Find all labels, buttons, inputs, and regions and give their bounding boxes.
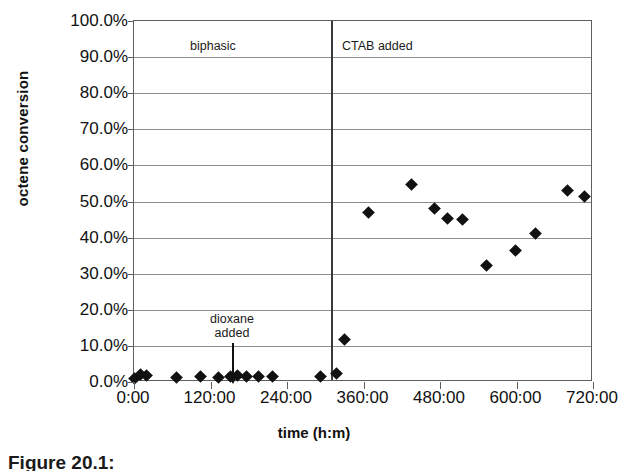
data-point-marker [267, 370, 280, 383]
gridline [134, 310, 591, 311]
y-tick-label: 40.0% [36, 229, 128, 246]
y-tick-mark [128, 165, 134, 166]
y-tick-mark [128, 238, 134, 239]
y-tick-label: 60.0% [36, 156, 128, 173]
data-point-marker [338, 333, 351, 346]
y-tick-label: 10.0% [36, 337, 128, 354]
y-tick-mark [128, 129, 134, 130]
gridline [134, 274, 591, 275]
data-point-marker [480, 259, 493, 272]
gridline [134, 57, 591, 58]
figure-scatter-chart: octene conversion 0.0%10.0%20.0%30.0%40.… [0, 0, 628, 471]
gridline [134, 93, 591, 94]
ctab-divider-line [331, 21, 333, 380]
data-point-marker [441, 212, 454, 225]
data-point-marker [429, 202, 442, 215]
figure-caption: Figure 20.1: [8, 452, 428, 471]
y-tick-label: 70.0% [36, 120, 128, 137]
dioxane-annotation-line1: dioxane [210, 312, 254, 326]
y-tick-mark [128, 57, 134, 58]
dioxane-annotation-line2: added [192, 326, 272, 340]
y-tick-mark [128, 382, 134, 383]
data-point-marker [170, 371, 183, 384]
plot-area: biphasic CTAB added dioxane added [133, 20, 592, 381]
y-tick-label: 30.0% [36, 265, 128, 282]
y-tick-label: 100.0% [36, 12, 128, 29]
y-tick-label: 80.0% [36, 84, 128, 101]
data-point-marker [509, 244, 522, 257]
x-axis-tick-labels: 0:00120:00240:00360:00480:00600:00720:00 [0, 389, 628, 415]
data-point-marker [195, 370, 208, 383]
x-tick-label: 720:00 [547, 389, 628, 406]
y-tick-mark [128, 310, 134, 311]
dioxane-annotation: dioxane added [192, 312, 272, 340]
y-tick-mark [128, 274, 134, 275]
y-tick-label: 50.0% [36, 193, 128, 210]
y-tick-label: 0.0% [36, 373, 128, 390]
data-point-marker [405, 178, 418, 191]
y-tick-mark [128, 93, 134, 94]
biphasic-region-label: biphasic [190, 39, 236, 53]
data-point-marker [253, 370, 266, 383]
data-point-marker [314, 371, 327, 384]
y-tick-mark [128, 202, 134, 203]
gridline [134, 346, 591, 347]
y-tick-label: 20.0% [36, 301, 128, 318]
gridline [134, 202, 591, 203]
data-point-marker [457, 214, 470, 227]
ctab-added-region-label: CTAB added [342, 39, 413, 53]
x-axis-title: time (h:m) [0, 424, 628, 441]
gridline [134, 238, 591, 239]
data-point-marker [212, 371, 225, 384]
y-tick-label: 90.0% [36, 48, 128, 65]
y-tick-mark [128, 21, 134, 22]
y-tick-mark [128, 346, 134, 347]
gridline [134, 129, 591, 130]
data-point-marker [362, 206, 375, 219]
gridline [134, 165, 591, 166]
data-point-marker [561, 184, 574, 197]
